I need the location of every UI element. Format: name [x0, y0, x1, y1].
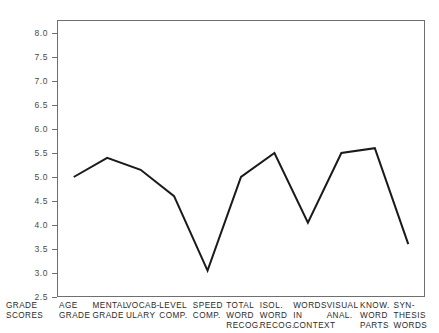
y-axis-tick-label: 5.0 — [34, 172, 48, 182]
x-axis-category-label: SYN- THESIS WORDS — [394, 301, 433, 332]
y-axis-tick-label: 5.5 — [34, 148, 48, 158]
y-axis-tick-label: 7.5 — [34, 52, 48, 62]
x-axis: AGE GRADEMENTAL GRADEVOCAB- ULARYLEVEL C… — [0, 301, 439, 333]
y-axis-tick-mark — [52, 153, 57, 154]
y-axis-tick-mark — [52, 129, 57, 130]
y-axis-tick-label: 6.0 — [34, 124, 48, 134]
y-axis-tick-mark — [52, 177, 57, 178]
y-axis-tick-mark — [52, 33, 57, 34]
y-axis-tick-label: 4.5 — [34, 196, 48, 206]
y-axis-tick-mark — [52, 105, 57, 106]
y-axis-tick-mark — [52, 273, 57, 274]
y-axis-tick-label: 4.0 — [34, 220, 48, 230]
plot-area — [57, 20, 425, 297]
y-axis-tick-mark — [52, 249, 57, 250]
y-axis-tick-label: 2.5 — [34, 292, 48, 302]
y-axis-tick-label: 3.0 — [34, 268, 48, 278]
y-axis-tick-mark — [52, 201, 57, 202]
y-axis-tick-mark — [52, 225, 57, 226]
y-axis-tick-mark — [52, 57, 57, 58]
y-axis-tick-mark — [52, 297, 57, 298]
y-axis-tick-mark — [52, 81, 57, 82]
y-axis-tick-label: 3.5 — [34, 244, 48, 254]
grade-scores-profile-chart: 8.07.57.06.56.05.55.04.54.03.53.02.5 GRA… — [0, 0, 439, 333]
y-axis-tick-label: 7.0 — [34, 76, 48, 86]
y-axis-tick-label: 6.5 — [34, 100, 48, 110]
y-axis-tick-label: 8.0 — [34, 28, 48, 38]
y-axis: 8.07.57.06.56.05.55.04.54.03.53.02.5 — [0, 0, 57, 333]
